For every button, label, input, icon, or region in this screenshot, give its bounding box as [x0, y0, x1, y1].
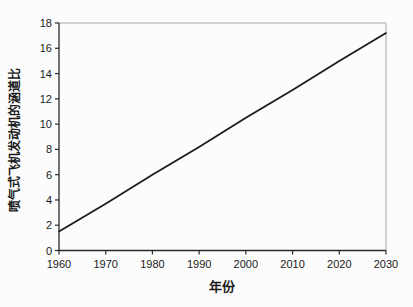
x-axis-title: 年份 [209, 279, 236, 294]
y-tick-label: 12 [40, 93, 52, 105]
y-tick-label: 16 [40, 42, 52, 54]
y-tick-label: 14 [40, 68, 52, 80]
y-tick-label: 6 [46, 169, 52, 181]
y-tick-label: 18 [40, 17, 52, 29]
y-tick-label: 8 [46, 143, 52, 155]
chart-svg: 0246810121416181960197019801990200020102… [0, 0, 413, 307]
figure: 0246810121416181960197019801990200020102… [0, 0, 413, 307]
x-tick-label: 2030 [374, 258, 398, 270]
x-tick-label: 2020 [327, 258, 351, 270]
x-tick-label: 1990 [187, 258, 211, 270]
y-axis-title: 喷气式飞机发动机的涵道比 [7, 68, 22, 212]
x-tick-label: 2010 [280, 258, 304, 270]
x-tick-label: 1970 [93, 258, 117, 270]
x-tick-label: 2000 [234, 258, 258, 270]
y-tick-label: 2 [46, 219, 52, 231]
y-tick-label: 10 [40, 118, 52, 130]
x-tick-label: 1960 [47, 258, 71, 270]
x-tick-label: 1980 [140, 258, 164, 270]
y-tick-label: 0 [46, 245, 52, 257]
y-tick-label: 4 [46, 194, 52, 206]
trend-line [59, 33, 386, 231]
chart-plot-area: 0246810121416181960197019801990200020102… [40, 17, 398, 270]
